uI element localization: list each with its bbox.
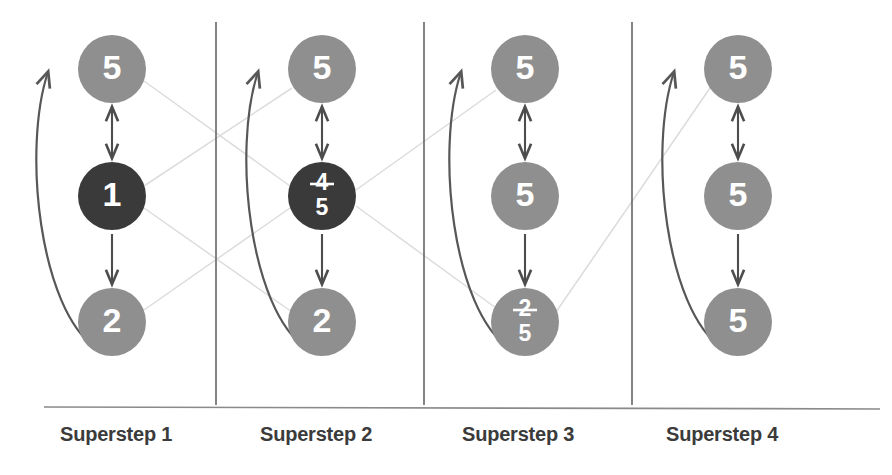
- baseline-rule: [44, 407, 880, 409]
- supersteps-diagram: 51254525525555: [0, 0, 892, 475]
- vertex-value-s2-bottom: 2: [313, 301, 332, 339]
- vertex-node-s4-top[interactable]: 5: [704, 35, 772, 103]
- column-dividers-group: [216, 22, 632, 405]
- vertex-value-s1-bottom: 2: [103, 301, 122, 339]
- vertex-node-s2-bottom[interactable]: 2: [288, 288, 356, 356]
- vertex-node-s3-bottom[interactable]: 25: [491, 288, 559, 356]
- superstep-label-superstep-2: Superstep 2: [260, 423, 372, 446]
- diagram-canvas: 51254525525555 Superstep 1Superstep 2Sup…: [0, 0, 892, 475]
- vertex-value-s4-middle: 5: [729, 175, 748, 213]
- message-lines-group: [144, 81, 710, 312]
- vertex-value-s4-top: 5: [729, 48, 748, 86]
- superstep-label-superstep-4: Superstep 4: [666, 423, 778, 446]
- superstep-label-superstep-3: Superstep 3: [462, 423, 574, 446]
- vertex-node-s4-bottom[interactable]: 5: [704, 288, 772, 356]
- vertex-value-s3-middle: 5: [516, 175, 535, 213]
- intra-column-arrows-group: [112, 107, 738, 284]
- message-line-msg-s3bottom-to-s4top: [556, 88, 710, 312]
- vertex-node-s2-middle[interactable]: 45: [288, 162, 356, 230]
- vertex-old-value-s2-middle: 4: [316, 169, 329, 195]
- superstep-label-superstep-1: Superstep 1: [60, 423, 172, 446]
- vertex-node-s3-top[interactable]: 5: [491, 35, 559, 103]
- vertex-value-s2-middle: 5: [316, 194, 329, 220]
- vertex-nodes-group: 51254525525555: [78, 35, 772, 356]
- vertex-node-s3-middle[interactable]: 5: [491, 162, 559, 230]
- message-line-msg-s2middle-to-s3top: [356, 90, 496, 190]
- vertex-value-s2-top: 5: [313, 48, 332, 86]
- vertex-node-s4-middle[interactable]: 5: [704, 162, 772, 230]
- vertex-value-s1-middle: 1: [103, 175, 122, 213]
- vertex-value-s3-bottom: 5: [519, 320, 532, 346]
- message-line-msg-s1top-to-s2middle: [144, 81, 290, 186]
- vertex-value-s3-top: 5: [516, 48, 535, 86]
- vertex-old-value-s3-bottom: 2: [519, 295, 532, 321]
- vertex-node-s1-middle[interactable]: 1: [78, 162, 146, 230]
- baseline-rule-group: [44, 407, 880, 409]
- vertex-node-s1-top[interactable]: 5: [78, 35, 146, 103]
- vertex-node-s2-top[interactable]: 5: [288, 35, 356, 103]
- message-line-msg-s2middle-to-s3bottom: [356, 206, 496, 308]
- vertex-node-s1-bottom[interactable]: 2: [78, 288, 146, 356]
- vertex-value-s1-top: 5: [103, 48, 122, 86]
- vertex-value-s4-bottom: 5: [729, 301, 748, 339]
